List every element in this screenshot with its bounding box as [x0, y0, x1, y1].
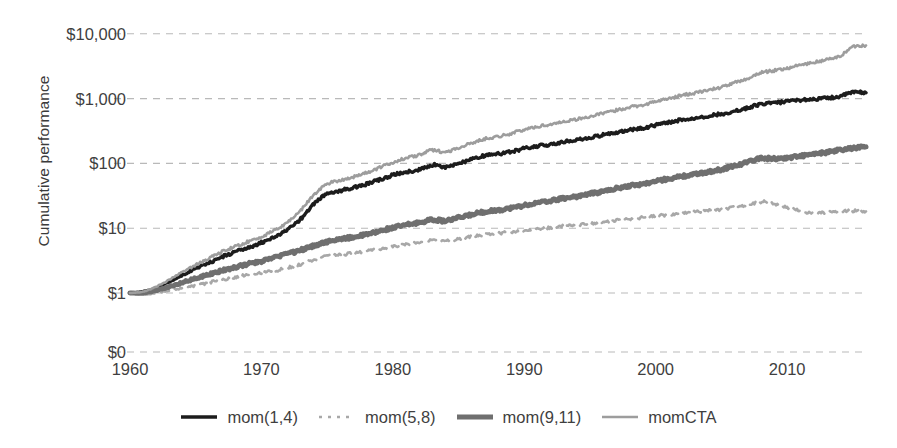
legend-swatch-mom14	[180, 411, 218, 423]
legend-item-momcta[interactable]: momCTA	[601, 408, 716, 427]
legend-item-mom911[interactable]: mom(9,11)	[456, 408, 582, 427]
y-tick-0: $0	[108, 344, 126, 361]
y-tick-1000: $1,000	[76, 90, 126, 107]
legend-swatch-momcta	[601, 411, 639, 423]
legend-label: momCTA	[648, 408, 716, 427]
y-tick-100: $100	[89, 155, 126, 172]
legend-label: mom(5,8)	[365, 408, 436, 427]
series-line-momcta	[130, 45, 866, 293]
series-line-mom58	[130, 200, 866, 294]
legend-label: mom(9,11)	[503, 408, 582, 427]
x-tick-1980: 1980	[374, 360, 411, 379]
legend-label: mom(1,4)	[227, 408, 298, 427]
x-tick-1990: 1990	[506, 360, 543, 379]
y-tick-10000: $10,000	[66, 26, 126, 43]
chart-legend: mom(1,4)mom(5,8)mom(9,11)momCTA	[0, 402, 897, 432]
legend-swatch-mom911	[456, 411, 494, 423]
x-tick-2000: 2000	[637, 360, 674, 379]
legend-item-mom58[interactable]: mom(5,8)	[318, 408, 436, 427]
series-line-mom911	[130, 146, 866, 293]
legend-swatch-mom58	[318, 411, 356, 423]
x-axis-tick-labels: 196019701980199020002010	[0, 360, 897, 386]
x-tick-1970: 1970	[243, 360, 280, 379]
y-tick-1: $1	[108, 285, 126, 302]
y-tick-10: $10	[98, 220, 126, 237]
x-tick-2010: 2010	[769, 360, 806, 379]
x-tick-1960: 1960	[112, 360, 149, 379]
legend-item-mom14[interactable]: mom(1,4)	[180, 408, 298, 427]
cumulative-performance-chart: Cumulative performance $0$1$10$100$1,000…	[0, 0, 897, 448]
